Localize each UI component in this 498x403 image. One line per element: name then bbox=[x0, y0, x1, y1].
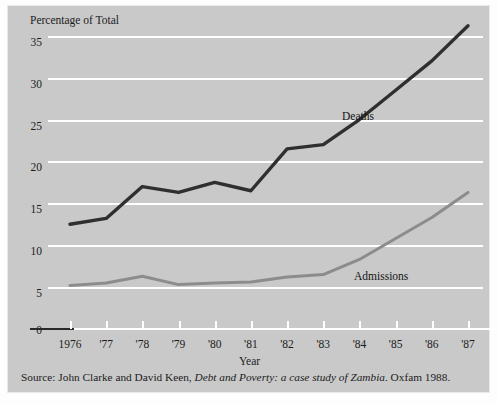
source-citation: Source: John Clarke and David Keen, Debt… bbox=[21, 371, 450, 383]
line-deaths bbox=[70, 26, 468, 225]
x-tick-86 bbox=[432, 321, 434, 329]
source-title: Debt and Poverty: a case study of Zambia bbox=[195, 371, 385, 383]
x-tick-79 bbox=[179, 321, 181, 329]
x-tick-label-84: '84 bbox=[353, 338, 367, 350]
y-tick-label-15: 15 bbox=[31, 203, 43, 215]
y-tick-label-35: 35 bbox=[31, 36, 43, 48]
x-tick-81 bbox=[251, 321, 253, 329]
chart-panel: Percentage of Total 05101520253035 1976'… bbox=[7, 5, 490, 393]
x-tick-label-87: '87 bbox=[461, 338, 475, 350]
x-axis-line bbox=[48, 328, 498, 330]
x-tick-83 bbox=[323, 321, 325, 329]
x-tick-label-82: '82 bbox=[280, 338, 294, 350]
x-tick-77 bbox=[106, 321, 108, 329]
y-tick-label-20: 20 bbox=[31, 161, 43, 173]
x-tick-label-85: '85 bbox=[389, 338, 403, 350]
x-tick-label-77: '77 bbox=[99, 338, 113, 350]
x-tick-84 bbox=[359, 321, 361, 329]
chart-figure: Percentage of Total 05101520253035 1976'… bbox=[0, 0, 498, 403]
series-label-deaths: Deaths bbox=[342, 110, 374, 122]
x-tick-label-81: '81 bbox=[244, 338, 258, 350]
x-tick-78 bbox=[142, 321, 144, 329]
source-prefix: Source: John Clarke and David Keen, bbox=[21, 371, 192, 383]
series-label-admissions: Admissions bbox=[354, 270, 408, 282]
y-tick-label-0: 0 bbox=[36, 324, 42, 336]
x-axis-title: Year bbox=[8, 355, 491, 367]
zero-baseline-rule bbox=[30, 328, 74, 330]
y-tick-label-25: 25 bbox=[31, 120, 43, 132]
x-tick-label-80: '80 bbox=[208, 338, 222, 350]
x-tick-label-83: '83 bbox=[316, 338, 330, 350]
x-tick-label-79: '79 bbox=[172, 338, 186, 350]
x-tick-80 bbox=[215, 321, 217, 329]
x-tick-label-86: '86 bbox=[425, 338, 439, 350]
y-tick-label-5: 5 bbox=[36, 287, 42, 299]
series-lines bbox=[48, 19, 483, 329]
y-tick-label-10: 10 bbox=[31, 245, 43, 257]
x-tick-1976 bbox=[70, 321, 72, 329]
plot-area: 05101520253035 bbox=[48, 19, 483, 329]
x-tick-85 bbox=[396, 321, 398, 329]
x-tick-label-78: '78 bbox=[136, 338, 150, 350]
source-suffix: . Oxfam 1988. bbox=[385, 371, 450, 383]
x-tick-label-1976: 1976 bbox=[59, 338, 82, 350]
x-tick-87 bbox=[468, 321, 470, 329]
x-tick-82 bbox=[287, 321, 289, 329]
y-tick-label-30: 30 bbox=[31, 78, 43, 90]
